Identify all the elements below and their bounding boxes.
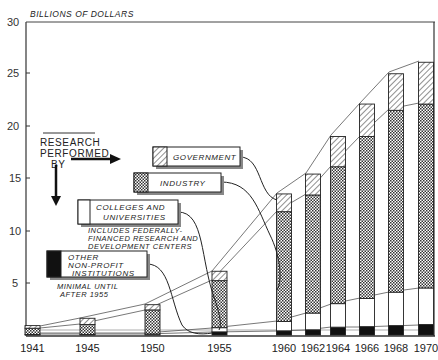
bar-segment-government xyxy=(360,104,375,136)
bar-segment-other-non-profit-institutions xyxy=(306,330,321,335)
bar-1964 xyxy=(331,136,346,335)
legend-other-line3: INSTITUTIONS xyxy=(72,269,135,278)
x-tick-1960: 1960 xyxy=(272,342,296,354)
bar-segment-colleges-and-universities xyxy=(360,298,375,326)
legend-industry: INDUSTRY xyxy=(134,173,224,195)
x-tick-1970: 1970 xyxy=(414,342,438,354)
x-axis-labels: 1941194519501955196019621964196619681970 xyxy=(20,342,438,354)
x-tick-1968: 1968 xyxy=(384,342,408,354)
bar-segment-government xyxy=(212,271,227,280)
bar-segment-government xyxy=(25,326,40,329)
bar-1968 xyxy=(389,74,404,335)
bar-1966 xyxy=(360,104,375,335)
bar-segment-industry xyxy=(25,328,40,334)
legend-header-line1: RESEARCH xyxy=(40,137,100,148)
bar-1960 xyxy=(277,194,292,335)
bar-segment-other-non-profit-institutions xyxy=(360,327,375,335)
bar-segment-government xyxy=(419,62,434,104)
bar-segment-government xyxy=(277,194,292,212)
legend-header: RESEARCH PERFORMED BY xyxy=(40,133,121,206)
bar-1941 xyxy=(25,326,40,335)
y-tick-10: 10 xyxy=(9,225,21,237)
x-tick-1945: 1945 xyxy=(75,342,99,354)
y-axis-title: BILLIONS OF DOLLARS xyxy=(30,9,134,19)
colleges-swatch xyxy=(78,200,90,224)
legend-other-nonprofit: OTHER NON-PROFIT INSTITUTIONS MINIMAL UN… xyxy=(47,251,150,299)
legend-header-line3: BY xyxy=(51,159,66,170)
bar-1962 xyxy=(306,174,321,335)
colleges-note-line3: DEVELOPMENT CENTERS xyxy=(88,242,192,251)
other-swatch xyxy=(47,251,61,277)
x-tick-1964: 1964 xyxy=(326,342,350,354)
bar-segment-industry xyxy=(145,310,160,334)
bar-segment-industry xyxy=(306,195,321,313)
x-tick-1966: 1966 xyxy=(355,342,379,354)
bar-segment-other-non-profit-institutions xyxy=(212,332,227,335)
bar-segment-industry xyxy=(80,325,95,335)
bar-1970 xyxy=(419,62,434,335)
x-tick-1962: 1962 xyxy=(301,342,325,354)
y-tick-15: 15 xyxy=(9,172,21,184)
bar-segment-industry xyxy=(389,110,404,292)
other-note-line2: AFTER 1955 xyxy=(59,290,109,299)
legend-government: GOVERNMENT xyxy=(153,147,243,169)
bar-segment-government xyxy=(145,305,160,310)
legend-industry-label: INDUSTRY xyxy=(160,179,205,188)
bar-1945 xyxy=(80,318,95,335)
bar-segment-government xyxy=(389,74,404,111)
bar-segment-colleges-and-universities xyxy=(277,321,292,330)
bar-segment-colleges-and-universities xyxy=(419,288,434,325)
x-tick-1950: 1950 xyxy=(140,342,164,354)
arrow-down-icon xyxy=(51,165,61,206)
bar-segment-other-non-profit-institutions xyxy=(277,331,292,335)
y-tick-25: 25 xyxy=(7,67,19,79)
x-tick-1955: 1955 xyxy=(207,342,231,354)
bar-segment-other-non-profit-institutions xyxy=(389,326,404,335)
x-tick-1941: 1941 xyxy=(20,342,44,354)
bar-segment-other-non-profit-institutions xyxy=(419,325,434,335)
y-tick-20: 20 xyxy=(7,120,19,132)
bar-segment-industry xyxy=(419,104,434,288)
bar-1955 xyxy=(212,271,227,335)
bar-segment-government xyxy=(331,136,346,166)
industry-swatch xyxy=(134,173,148,192)
bar-segment-colleges-and-universities xyxy=(389,292,404,325)
bar-segment-government xyxy=(306,174,321,195)
legend-colleges: COLLEGES AND UNIVERSITIES INCLUDES FEDER… xyxy=(78,200,198,251)
bar-segment-colleges-and-universities xyxy=(306,313,321,330)
bar-segment-colleges-and-universities xyxy=(331,304,346,328)
bar-segment-industry xyxy=(360,136,375,298)
bar-segment-government xyxy=(80,318,95,324)
bar-segment-industry xyxy=(277,212,292,322)
bar-segment-industry xyxy=(331,167,346,304)
legend-colleges-line2: UNIVERSITIES xyxy=(103,213,166,222)
bar-segment-other-non-profit-institutions xyxy=(331,327,346,335)
stacked-bar-chart: BILLIONS OF DOLLARS 5 10 15 20 25 30 1 xyxy=(0,0,438,360)
bar-1950 xyxy=(145,305,160,335)
y-tick-5: 5 xyxy=(12,277,18,289)
legend-colleges-line1: COLLEGES AND xyxy=(96,203,165,212)
legend-government-label: GOVERNMENT xyxy=(173,153,237,162)
legend-header-line2: PERFORMED xyxy=(40,148,109,159)
y-tick-30: 30 xyxy=(7,16,19,28)
bar-segment-industry xyxy=(212,281,227,328)
government-swatch xyxy=(153,147,167,166)
